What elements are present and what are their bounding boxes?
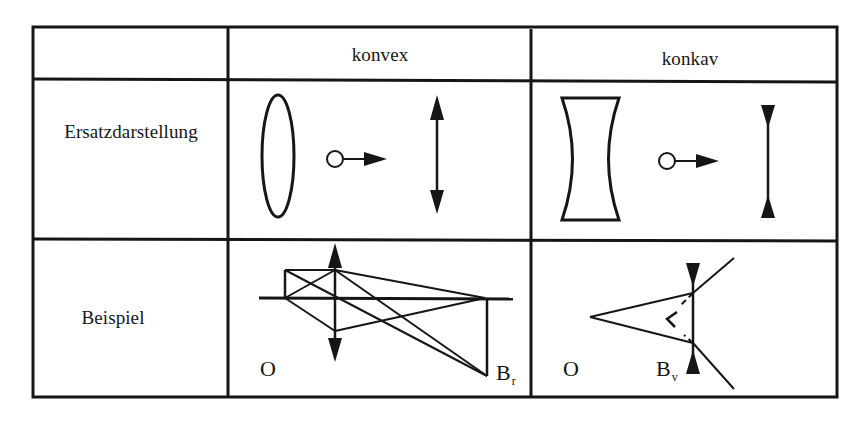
ray-lower-incident <box>590 317 693 343</box>
ray-refracted-to-focus <box>335 270 485 298</box>
image-label-concave: Bv <box>656 358 678 383</box>
double-arrow-outward-lens-symbol-icon <box>430 95 444 214</box>
image-label-concave-letter: B <box>656 356 671 381</box>
header-row-divider <box>33 79 837 82</box>
ray-central <box>285 270 487 376</box>
ray-upper-incident <box>590 293 693 317</box>
image-label-convex-subscript: r <box>512 374 516 388</box>
lens-comparison-table: konvex konkav Ersatzdarstellung Beispiel… <box>0 0 862 421</box>
column-header-konkav: konkav <box>662 49 719 68</box>
double-arrow-inward-lens-symbol-icon <box>761 105 775 218</box>
ray-lower-refracted <box>335 298 485 331</box>
image-label-concave-subscript: v <box>672 370 678 384</box>
biconvex-lens-ellipse-icon <box>262 95 294 217</box>
ray-lower-incident <box>285 298 335 331</box>
optical-axis <box>259 298 513 299</box>
ray-lower-diverged <box>693 343 734 389</box>
table-grid <box>33 27 837 397</box>
convex-replacement-cell <box>262 95 444 217</box>
diverging-lens-symbol-icon <box>686 263 700 374</box>
virtual-image-point-marker <box>667 312 677 327</box>
converging-lens-symbol-icon <box>328 243 342 362</box>
image-label-convex: Br <box>496 362 516 387</box>
column-header-konvex: konvex <box>352 45 409 64</box>
object-label-concave: O <box>563 358 579 380</box>
maps-to-arrow-icon <box>659 153 719 169</box>
convex-example-ray-diagram <box>259 243 513 376</box>
row-label-beispiel: Beispiel <box>81 308 144 327</box>
image-label-convex-letter: B <box>496 360 511 385</box>
concave-replacement-cell <box>562 98 775 220</box>
row-label-ersatzdarstellung: Ersatzdarstellung <box>64 122 198 141</box>
ray-refracted-top <box>335 270 487 376</box>
object-label-convex: O <box>260 358 276 380</box>
maps-to-arrow-icon <box>327 151 387 167</box>
biconcave-lens-icon <box>562 98 619 220</box>
body-row-divider <box>33 239 837 241</box>
